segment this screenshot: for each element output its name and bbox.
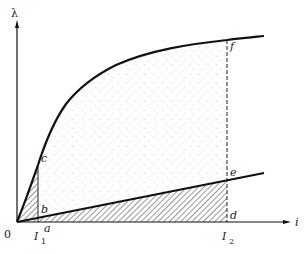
- tick-label-I2: I 2: [221, 230, 234, 246]
- point-label-e: e: [230, 166, 237, 179]
- svg-text:I: I: [33, 230, 39, 243]
- diagram-canvas: λ i 0 c b a f e d I 1 I 2: [0, 0, 308, 254]
- point-label-b: b: [41, 203, 48, 216]
- svg-text:2: 2: [229, 237, 234, 246]
- point-label-c: c: [41, 152, 47, 165]
- svg-text:I: I: [221, 230, 227, 243]
- x-axis-arrow-icon: [283, 220, 291, 224]
- point-label-f: f: [229, 40, 236, 53]
- y-axis-label: λ: [11, 7, 18, 20]
- point-label-a: a: [44, 222, 51, 235]
- x-axis-label: i: [295, 216, 299, 229]
- y-axis-arrow-icon: [15, 20, 19, 28]
- origin-label: 0: [4, 228, 11, 241]
- point-label-d: d: [230, 209, 237, 222]
- svg-text:1: 1: [41, 237, 46, 246]
